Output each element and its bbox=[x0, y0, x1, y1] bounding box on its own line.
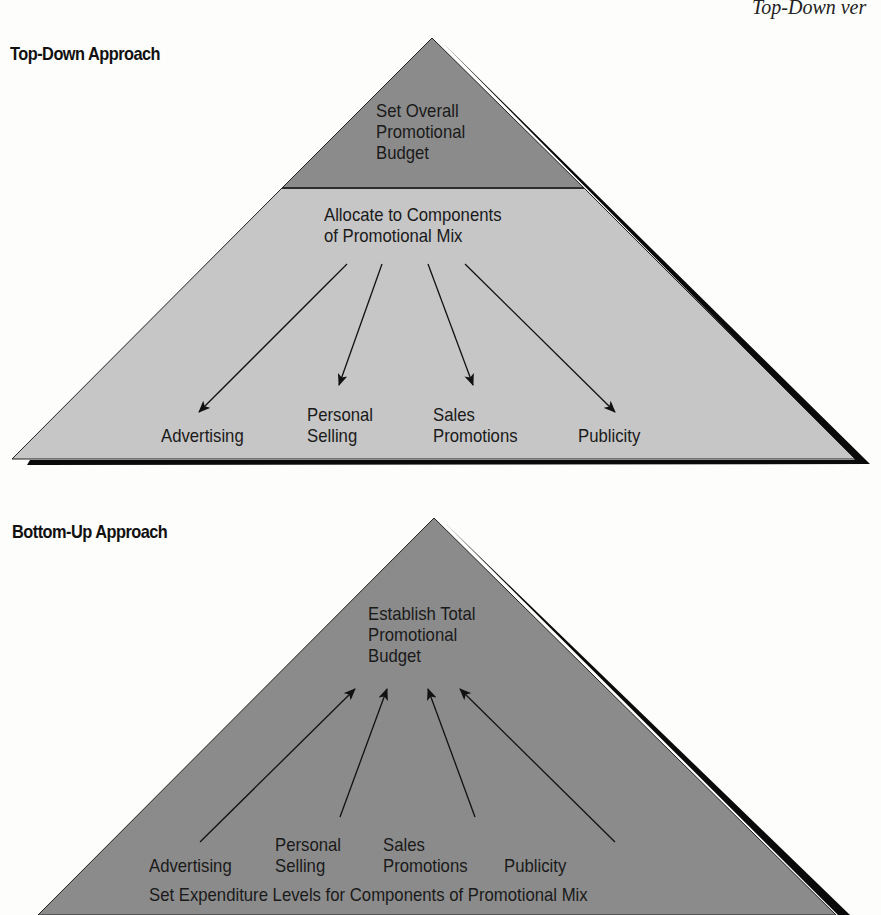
apex-line-3: Budget bbox=[368, 645, 476, 666]
component-line: Advertising bbox=[149, 855, 232, 876]
component-line: Sales bbox=[383, 834, 468, 855]
top-down-personal-selling-label: Personal Selling bbox=[307, 404, 373, 446]
top-down-apex-label: Set Overall Promotional Budget bbox=[376, 100, 465, 163]
component-line: Promotions bbox=[433, 425, 518, 446]
top-down-sales-promotions-label: Sales Promotions bbox=[433, 404, 518, 446]
apex-line-2: Promotional bbox=[376, 121, 465, 142]
component-line: Selling bbox=[275, 855, 341, 876]
apex-line-3: Budget bbox=[376, 142, 465, 163]
component-line: Personal bbox=[275, 834, 341, 855]
apex-line-2: Promotional bbox=[368, 624, 476, 645]
apex-line-1: Set Overall bbox=[376, 100, 465, 121]
top-down-advertising-label: Advertising bbox=[161, 425, 244, 446]
bottom-up-personal-selling-label: Personal Selling bbox=[275, 834, 341, 876]
bottom-up-apex-label: Establish Total Promotional Budget bbox=[368, 603, 476, 666]
component-line: Publicity bbox=[504, 855, 566, 876]
allocate-line-2: of Promotional Mix bbox=[324, 225, 502, 246]
component-line: Selling bbox=[307, 425, 373, 446]
bottom-up-base-label: Set Expenditure Levels for Components of… bbox=[149, 884, 588, 905]
component-line: Advertising bbox=[161, 425, 244, 446]
allocate-label: Allocate to Components of Promotional Mi… bbox=[324, 204, 502, 246]
bottom-up-publicity-label: Publicity bbox=[504, 855, 566, 876]
top-down-publicity-label: Publicity bbox=[578, 425, 640, 446]
bottom-up-sales-promotions-label: Sales Promotions bbox=[383, 834, 468, 876]
component-line: Promotions bbox=[383, 855, 468, 876]
component-line: Publicity bbox=[578, 425, 640, 446]
apex-line-1: Establish Total bbox=[368, 603, 476, 624]
component-line: Personal bbox=[307, 404, 373, 425]
bottom-up-advertising-label: Advertising bbox=[149, 855, 232, 876]
component-line: Sales bbox=[433, 404, 518, 425]
allocate-line-1: Allocate to Components bbox=[324, 204, 502, 225]
